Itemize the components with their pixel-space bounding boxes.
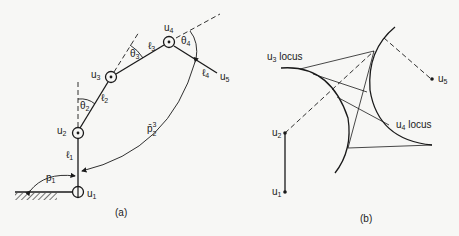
joint-u3 — [106, 72, 117, 83]
label-p1: p1 — [46, 172, 56, 184]
label-u3-locus: u3 locus — [267, 51, 303, 63]
dashed-u2-to-u4 — [285, 51, 374, 133]
label-u5: u5 — [220, 71, 230, 83]
joint-u2 — [73, 128, 84, 139]
ground-hatch — [15, 193, 57, 200]
panel-b-loci: u1 u2 u5 u3 locus u4 locus (b) — [267, 27, 448, 224]
label-l3: ℓ3 — [148, 40, 155, 52]
label-u4: u4 — [164, 22, 174, 34]
label-l1: ℓ1 — [66, 149, 73, 161]
angle-arc-theta4 — [190, 31, 197, 60]
label-theta3: θ3 — [130, 48, 140, 60]
config-line — [348, 145, 432, 148]
label-span-vector: p̄32 — [147, 121, 157, 137]
label-u3: u3 — [91, 69, 101, 81]
label-u2: u2 — [57, 125, 67, 137]
config-line — [313, 74, 367, 92]
caption-a: (a) — [115, 207, 127, 218]
joint-u1 — [73, 187, 84, 198]
label-u1-b: u1 — [272, 186, 282, 198]
point-u1 — [283, 190, 287, 194]
label-u1: u1 — [87, 188, 97, 200]
label-u2-b: u2 — [272, 127, 282, 139]
label-theta2: θ2 — [80, 100, 90, 112]
caption-b: (b) — [360, 213, 372, 224]
label-u5-b: u5 — [438, 73, 448, 85]
label-theta4: θ4 — [181, 35, 191, 47]
label-l4: ℓ4 — [202, 67, 209, 79]
figure: u1 u2 u3 u4 u5 ℓ1 ℓ2 ℓ3 ℓ4 θ2 θ3 θ4 p1 p… — [0, 0, 459, 236]
label-l2: ℓ2 — [101, 92, 108, 104]
panel-a-manipulator: u1 u2 u3 u4 u5 ℓ1 ℓ2 ℓ3 ℓ4 θ2 θ3 θ4 p1 p… — [15, 14, 230, 218]
point-u5 — [430, 77, 434, 81]
label-u4-locus: u4 locus — [396, 119, 432, 131]
link-l3 — [116, 45, 164, 74]
link-l4 — [174, 46, 217, 73]
config-line — [300, 51, 374, 69]
config-line — [348, 51, 374, 148]
dashed-u4-to-u5 — [384, 38, 430, 78]
joint-u4 — [164, 37, 175, 48]
